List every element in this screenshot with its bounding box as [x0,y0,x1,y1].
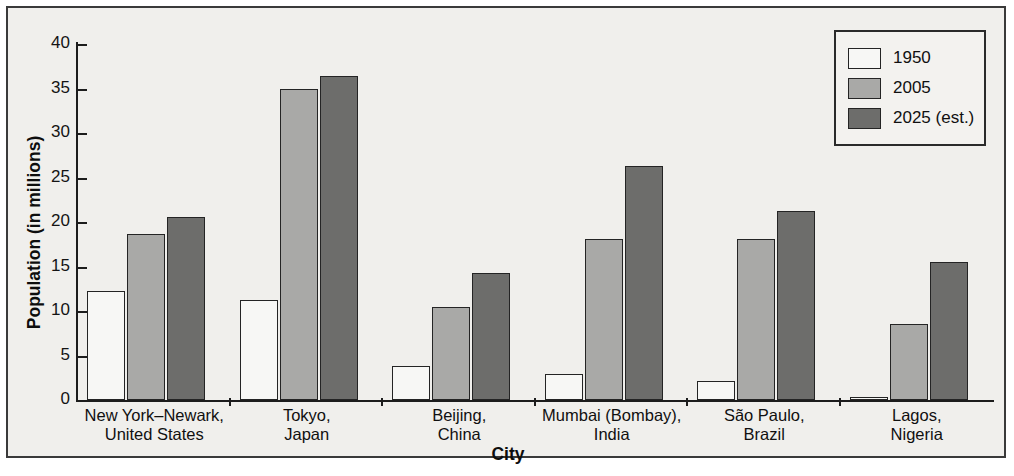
bar [850,397,888,400]
bar [890,324,928,400]
bar [697,381,735,400]
bar [432,307,470,400]
bar [87,291,125,400]
bar [777,211,815,400]
bar-group [392,44,510,400]
bar [625,166,663,400]
bar [320,76,358,400]
bar [240,300,278,400]
bar-group [240,44,358,400]
legend-item: 2025 (est.) [848,103,974,133]
bar-group [697,44,815,400]
legend-item: 2005 [848,73,974,103]
bar-group [87,44,205,400]
bar [545,374,583,400]
bar [127,234,165,400]
x-category-label: Lagos, Nigeria [821,406,1014,445]
legend-swatch-2005 [848,78,881,99]
bar [167,217,205,400]
chart-frame: Population (in millions) City 0510152025… [6,6,1006,458]
legend-label-1950: 1950 [893,48,931,68]
x-group-divider-tick [686,398,688,406]
bar-group [545,44,663,400]
bar [585,239,623,400]
x-group-divider-tick [534,398,536,406]
legend-swatch-1950 [848,48,881,69]
figure: Population (in millions) City 0510152025… [0,0,1014,476]
bar [737,239,775,400]
x-group-divider-tick [229,398,231,406]
legend-item: 1950 [848,43,974,73]
bar [930,262,968,400]
bar [472,273,510,400]
legend: 1950 2005 2025 (est.) [834,30,986,146]
legend-label-2025: 2025 (est.) [893,108,974,128]
bar [280,89,318,401]
x-group-divider-tick [381,398,383,406]
legend-swatch-2025 [848,108,881,129]
legend-label-2005: 2005 [893,78,931,98]
bar [392,366,430,400]
x-group-divider-tick [839,398,841,406]
